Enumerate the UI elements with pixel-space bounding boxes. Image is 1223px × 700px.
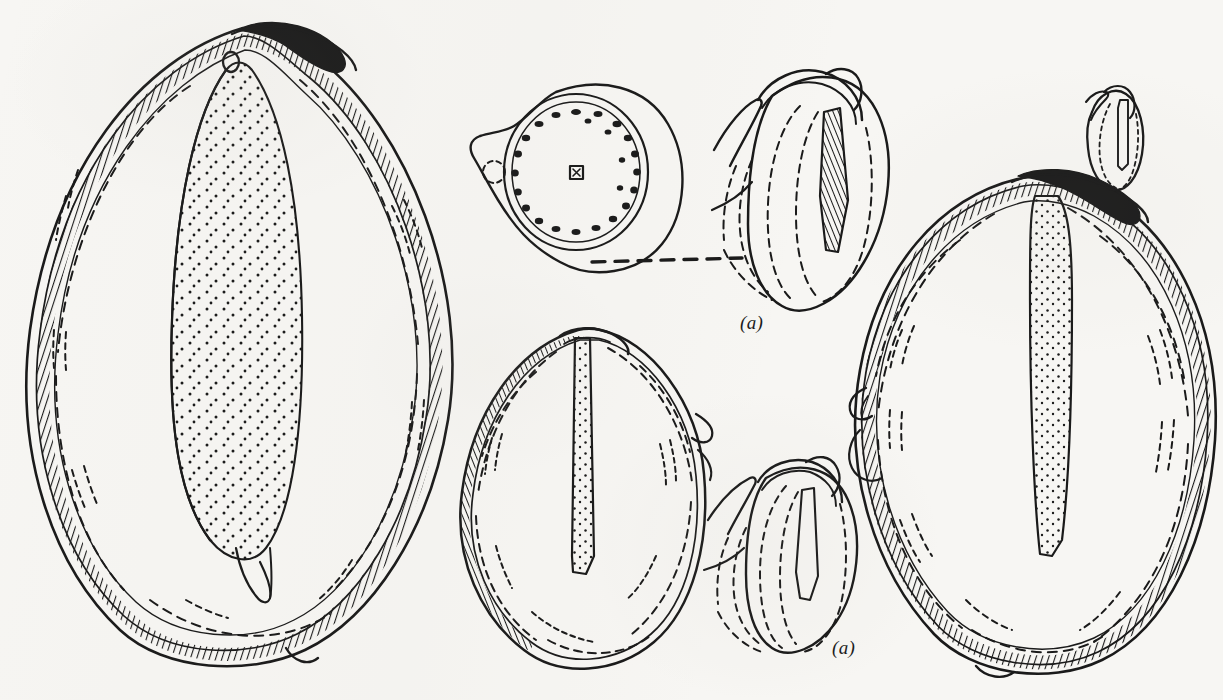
fig-transverse-section	[471, 85, 683, 272]
radicle-column-lower	[796, 488, 818, 600]
mid-raphe-column	[572, 338, 594, 574]
left-sheath	[714, 99, 762, 166]
plate-drawing	[0, 0, 1223, 700]
dashed-leader-line	[592, 258, 742, 262]
fig-right-longitudinal	[849, 170, 1216, 677]
tiny-radicle	[1118, 100, 1128, 170]
mid-hatch-band	[465, 334, 580, 646]
right-raphe-column	[1030, 196, 1072, 556]
radicle-tail-inner	[270, 548, 272, 598]
fig-embryo-tiny	[1086, 86, 1143, 190]
figure-label-a-lower: (a)	[832, 637, 855, 659]
figure-label-a-upper: (a)	[740, 312, 763, 334]
illustration-plate: (a) (a)	[0, 0, 1223, 700]
endosperm-body	[171, 63, 302, 560]
embryo-lower-dashed	[717, 486, 846, 652]
central-bundle-cross	[573, 169, 580, 176]
fig-embryo-lower	[704, 457, 857, 653]
left-sheath-lower	[712, 182, 752, 210]
radicle-column	[820, 108, 848, 252]
fig-left-longitudinal	[26, 23, 452, 667]
fig-mid-longitudinal	[460, 328, 712, 668]
cotyledon-lower-inner	[762, 471, 836, 506]
fig-embryo-upper	[712, 69, 889, 310]
